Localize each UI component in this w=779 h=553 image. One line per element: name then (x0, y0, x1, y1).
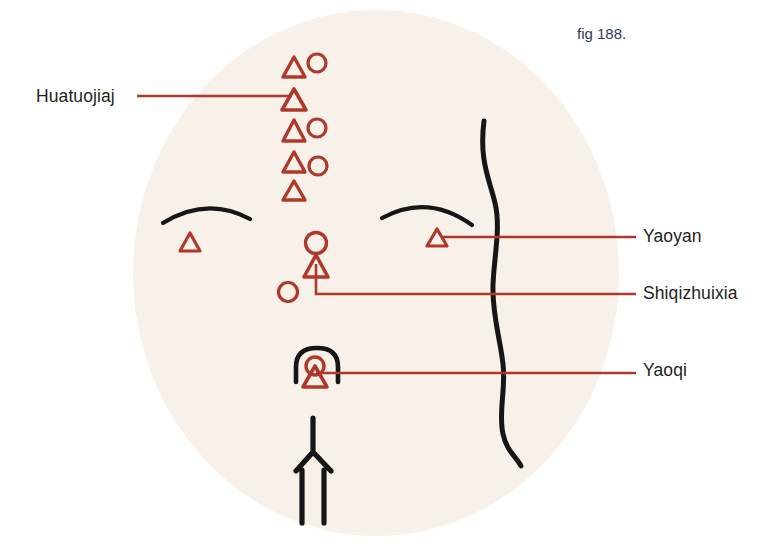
label-yaoyan: Yaoyan (643, 226, 702, 247)
figure-container: fig 188. Huatuojiaj Yaoyan Shiqizhuixia … (0, 0, 779, 553)
acupuncture-diagram-canvas (0, 0, 779, 553)
body-outline-shape (133, 10, 619, 536)
label-huatuojiaj: Huatuojiaj (36, 86, 115, 107)
figure-caption: fig 188. (577, 25, 626, 42)
label-shiqizhuixia: Shiqizhuixia (643, 283, 738, 304)
label-yaoqi: Yaoqi (643, 360, 687, 381)
